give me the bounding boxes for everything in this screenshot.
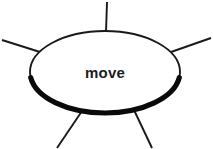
connector-line-lower-left[interactable] (57, 111, 82, 148)
connector-line-upper-right[interactable] (171, 38, 211, 52)
connector-line-top[interactable] (106, 2, 107, 32)
node-diagram: move (0, 0, 213, 149)
diagram-canvas: move (0, 0, 213, 149)
connector-line-upper-left[interactable] (2, 40, 40, 52)
node-label: move (85, 64, 125, 81)
connector-line-lower-right[interactable] (134, 110, 152, 148)
